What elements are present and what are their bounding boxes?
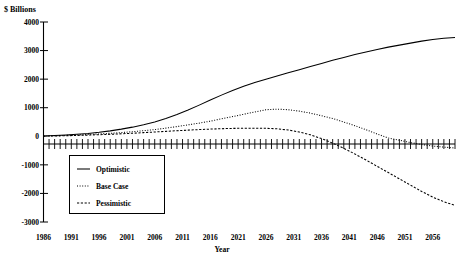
chart-legend: OptimisticBase CasePessimistic: [70, 156, 165, 214]
y-axis-title: $ Billions: [4, 5, 36, 14]
y-tick-label: 1000: [24, 103, 39, 112]
y-tick-label: 0: [35, 132, 39, 141]
legend-label: Pessimistic: [96, 199, 132, 208]
legend-label: Base Case: [96, 182, 129, 191]
y-tick-label: 3000: [24, 46, 39, 55]
x-tick-label: 2041: [342, 233, 357, 242]
x-tick-label: 2006: [147, 233, 162, 242]
x-tick-label: 2021: [231, 233, 246, 242]
x-tick-label: 2011: [175, 233, 190, 242]
x-tick-label: 1996: [92, 233, 107, 242]
x-tick-label: 2056: [425, 233, 440, 242]
legend-label: Optimistic: [96, 165, 130, 174]
y-tick-label: -3000: [22, 218, 40, 227]
x-axis-tick-labels: 1986199119962001200620112016202120262031…: [36, 233, 441, 242]
y-tick-label: -2000: [22, 189, 40, 198]
series-line-optimistic: [44, 37, 456, 136]
x-tick-label: 2031: [286, 233, 301, 242]
x-tick-label: 1991: [64, 233, 79, 242]
x-tick-label: 2001: [119, 233, 134, 242]
x-tick-label: 1986: [36, 233, 51, 242]
x-tick-label: 2051: [397, 233, 412, 242]
line-chart: $ Billions 40003000200010000-1000-2000-3…: [0, 0, 462, 260]
x-tick-label: 2036: [314, 233, 329, 242]
x-tick-label: 2026: [258, 233, 273, 242]
y-axis-tick-labels: 40003000200010000-1000-2000-3000: [22, 18, 40, 227]
x-axis-title: Year: [215, 245, 231, 254]
x-tick-label: 2046: [370, 233, 385, 242]
y-tick-label: 2000: [24, 75, 39, 84]
x-tick-label: 2016: [203, 233, 218, 242]
chart-container: $ Billions 40003000200010000-1000-2000-3…: [0, 0, 462, 260]
y-tick-label: -1000: [22, 161, 40, 170]
y-tick-label: 4000: [24, 18, 39, 27]
